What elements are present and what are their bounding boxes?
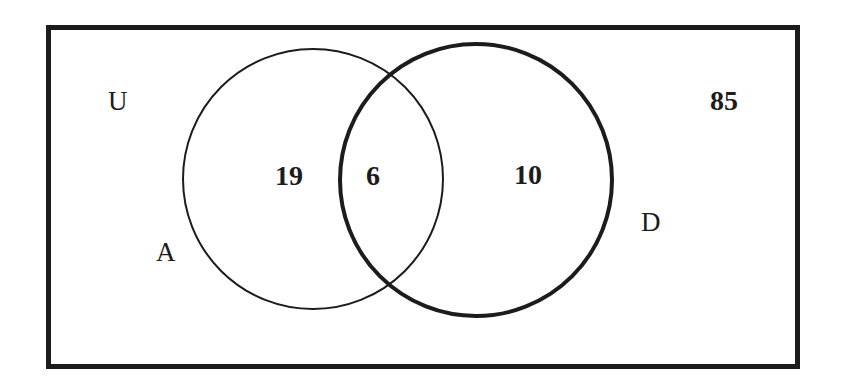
universal-set-label: U: [108, 88, 128, 115]
universal-set-rectangle: [49, 28, 798, 367]
outside-region-count: 85: [710, 87, 738, 115]
set-a-label: A: [156, 239, 176, 266]
set-a-only-count: 19: [275, 162, 303, 190]
set-d-label: D: [641, 209, 661, 236]
venn-diagram-canvas: [0, 0, 845, 391]
set-d-only-count: 10: [514, 161, 542, 189]
intersection-count: 6: [366, 162, 380, 190]
venn-diagram-figure: U A D 85 19 6 10: [0, 0, 845, 391]
